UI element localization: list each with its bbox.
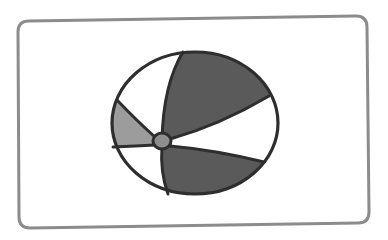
illustration-scene: [0, 0, 388, 240]
ball-hub: [153, 133, 171, 149]
